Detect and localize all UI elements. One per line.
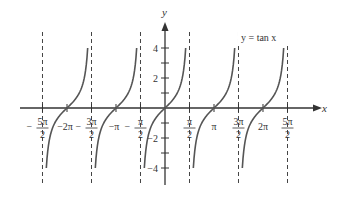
x-axis-arrow-icon — [313, 105, 322, 112]
x-tick-label: −5π2 — [26, 116, 48, 140]
y-axis-label: y — [161, 6, 167, 18]
y-tick-label: 2 — [153, 73, 158, 84]
minus-sign: − — [76, 121, 82, 132]
denominator: 2 — [138, 129, 143, 140]
numerator: 5π — [282, 116, 292, 127]
numerator: 5π — [37, 116, 47, 127]
x-tick-label: π2 — [184, 116, 196, 140]
minus-sign: − — [124, 121, 130, 132]
tangent-graph: −5π2−2π−3π2−π−π2π2π3π22π5π242−2−4 x y y … — [0, 0, 354, 200]
denominator: 2 — [285, 129, 290, 140]
x-tick-label: 3π2 — [232, 116, 244, 140]
y-tick-label: −2 — [147, 133, 158, 144]
denominator: 2 — [236, 129, 241, 140]
numerator: π — [187, 116, 192, 127]
function-label: y = tan x — [241, 32, 276, 43]
denominator: 2 — [187, 129, 192, 140]
x-tick-label: −π — [109, 121, 120, 132]
axes — [20, 22, 322, 185]
x-tick-label: −2π — [57, 121, 73, 132]
numerator: π — [138, 116, 143, 127]
denominator: 2 — [89, 129, 94, 140]
x-tick-label: −3π2 — [76, 116, 98, 140]
y-tick-label: 4 — [153, 43, 158, 54]
minus-sign: − — [26, 121, 32, 132]
denominator: 2 — [40, 129, 45, 140]
x-tick-label: 5π2 — [282, 116, 294, 140]
x-axis-label: x — [321, 102, 327, 114]
x-tick-label: −π2 — [124, 116, 146, 140]
x-tick-label: 2π — [258, 121, 268, 132]
numerator: 3π — [233, 116, 243, 127]
y-tick-label: −4 — [147, 163, 158, 174]
y-axis-arrow-icon — [162, 22, 169, 31]
numerator: 3π — [86, 116, 96, 127]
x-tick-label: π — [211, 121, 216, 132]
